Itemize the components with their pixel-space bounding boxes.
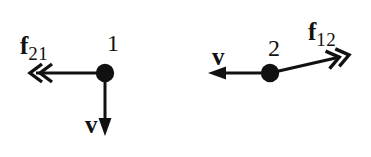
- velocity-1-arrowhead: [99, 118, 112, 136]
- force-diagram-figure: f21 1 v v 2 f12: [0, 0, 371, 157]
- particle-1-dot: [96, 64, 114, 82]
- force-f21-subscript: 21: [28, 43, 48, 64]
- particle-2-label: 2: [268, 36, 280, 60]
- particle-1-label: 1: [107, 31, 119, 55]
- force-f12-subscript: 12: [316, 29, 336, 50]
- velocity-2-label: v: [212, 44, 225, 69]
- force-f21-label: f21: [20, 33, 48, 58]
- velocity-1-label: v: [85, 112, 98, 137]
- particle-2-dot: [261, 64, 279, 82]
- force-f12-shaft: [270, 57, 340, 73]
- force-f12-label: f12: [308, 19, 336, 44]
